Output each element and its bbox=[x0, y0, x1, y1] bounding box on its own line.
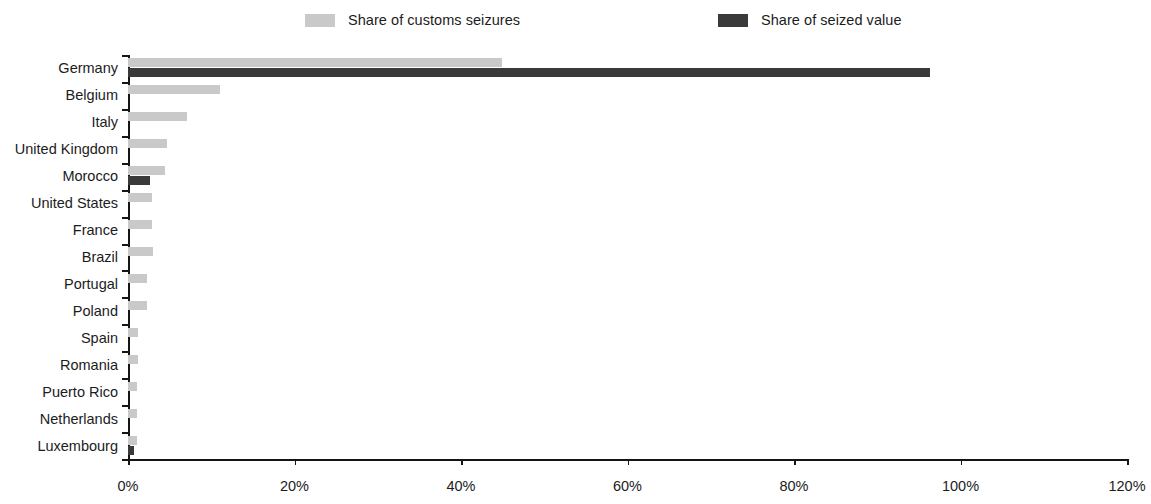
x-axis-label: 100% bbox=[942, 478, 979, 494]
y-axis-label: Romania bbox=[0, 357, 122, 373]
bar-seized-value bbox=[128, 446, 134, 455]
bar-customs-seizures bbox=[128, 112, 187, 121]
x-axis-label: 60% bbox=[613, 478, 642, 494]
bar-chart: Share of customs seizures Share of seize… bbox=[0, 0, 1151, 504]
y-axis-label: Puerto Rico bbox=[0, 384, 122, 400]
y-axis-tick bbox=[122, 163, 128, 165]
y-axis-tick bbox=[122, 351, 128, 353]
bar-customs-seizures bbox=[128, 301, 147, 310]
bar-customs-seizures bbox=[128, 58, 502, 67]
y-axis-tick bbox=[122, 109, 128, 111]
y-axis-tick bbox=[122, 270, 128, 272]
bar-customs-seizures bbox=[128, 139, 167, 148]
bar-customs-seizures bbox=[128, 274, 147, 283]
y-axis-label: Morocco bbox=[0, 168, 122, 184]
bar-customs-seizures bbox=[128, 85, 220, 94]
legend-label-customs-seizures: Share of customs seizures bbox=[348, 12, 520, 28]
y-axis-tick bbox=[122, 55, 128, 57]
bar-customs-seizures bbox=[128, 247, 153, 256]
y-axis-tick bbox=[122, 405, 128, 407]
legend-swatch-customs-seizures bbox=[305, 14, 335, 27]
x-axis-tick bbox=[461, 459, 463, 465]
y-axis-tick bbox=[122, 324, 128, 326]
bar-customs-seizures bbox=[128, 166, 165, 175]
x-axis-label: 80% bbox=[779, 478, 808, 494]
legend-label-seized-value: Share of seized value bbox=[761, 12, 902, 28]
y-axis-label: France bbox=[0, 222, 122, 238]
x-axis-label: 120% bbox=[1108, 478, 1145, 494]
bar-customs-seizures bbox=[128, 355, 138, 364]
x-axis-tick bbox=[794, 459, 796, 465]
x-axis-labels: 0%20%40%60%80%100%120% bbox=[0, 470, 1151, 496]
y-axis-tick bbox=[122, 297, 128, 299]
y-axis-tick bbox=[122, 136, 128, 138]
y-axis-label: Netherlands bbox=[0, 411, 122, 427]
bar-customs-seizures bbox=[128, 220, 152, 229]
y-axis-label: Brazil bbox=[0, 249, 122, 265]
y-axis-tick bbox=[122, 217, 128, 219]
legend-item-customs-seizures[interactable]: Share of customs seizures bbox=[305, 10, 520, 30]
legend-swatch-seized-value bbox=[718, 14, 748, 27]
plot-area: GermanyBelgiumItalyUnited KingdomMorocco… bbox=[0, 55, 1151, 465]
x-axis-tick bbox=[628, 459, 630, 465]
bar-customs-seizures bbox=[128, 328, 138, 337]
y-axis-tick bbox=[122, 432, 128, 434]
x-axis-tick bbox=[961, 459, 963, 465]
y-axis-label: United Kingdom bbox=[0, 141, 122, 157]
x-axis-tick bbox=[1127, 459, 1129, 465]
y-axis-label: Portugal bbox=[0, 276, 122, 292]
x-axis-label: 0% bbox=[118, 478, 139, 494]
y-axis-label: Belgium bbox=[0, 87, 122, 103]
x-axis-tick bbox=[128, 459, 130, 465]
bar-customs-seizures bbox=[128, 382, 137, 391]
y-axis-label: Italy bbox=[0, 114, 122, 130]
x-axis-tick bbox=[295, 459, 297, 465]
bar-customs-seizures bbox=[128, 193, 152, 202]
bar-seized-value bbox=[128, 176, 150, 185]
y-axis-tick bbox=[122, 244, 128, 246]
bar-customs-seizures bbox=[128, 436, 137, 445]
y-axis-label: Spain bbox=[0, 330, 122, 346]
x-axis-label: 20% bbox=[280, 478, 309, 494]
legend-item-seized-value[interactable]: Share of seized value bbox=[718, 10, 902, 30]
y-axis-label: Luxembourg bbox=[0, 438, 122, 454]
bar-seized-value bbox=[128, 68, 930, 77]
x-axis-label: 40% bbox=[446, 478, 475, 494]
y-axis-tick bbox=[122, 82, 128, 84]
y-axis-label: United States bbox=[0, 195, 122, 211]
bar-customs-seizures bbox=[128, 409, 137, 418]
y-axis-tick bbox=[122, 378, 128, 380]
chart-legend: Share of customs seizures Share of seize… bbox=[0, 8, 1151, 34]
y-axis-labels: GermanyBelgiumItalyUnited KingdomMorocco… bbox=[0, 55, 122, 460]
y-axis-label: Germany bbox=[0, 60, 122, 76]
bars-container bbox=[128, 55, 1128, 459]
y-axis-label: Poland bbox=[0, 303, 122, 319]
y-axis-tick bbox=[122, 190, 128, 192]
